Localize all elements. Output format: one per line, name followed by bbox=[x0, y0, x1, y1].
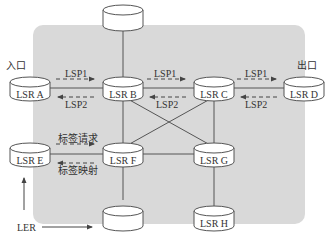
lsp2-ab-label: LSP2 bbox=[65, 99, 87, 110]
lsp1-ab-label: LSP1 bbox=[65, 68, 87, 79]
lsp2-cd-label: LSP2 bbox=[245, 99, 267, 110]
label-request-text: 标签请求 bbox=[58, 133, 98, 144]
lsp1-bc-label: LSP1 bbox=[154, 68, 176, 79]
mpls-diagram bbox=[0, 0, 328, 241]
egress-label: 出口 bbox=[297, 60, 317, 71]
lsr-b-label: LSR B bbox=[103, 89, 143, 101]
lsr-h-label: LSR H bbox=[194, 218, 234, 230]
label-mapping-text: 标签映射 bbox=[58, 165, 98, 176]
lsr-e-label: LSR E bbox=[10, 155, 50, 167]
lsp1-cd-label: LSP1 bbox=[245, 68, 267, 79]
lsr-a-label: LSR A bbox=[10, 89, 50, 101]
node-bottom bbox=[103, 206, 143, 231]
ingress-label: 入口 bbox=[6, 60, 26, 71]
mpls-region-bg bbox=[33, 25, 305, 224]
node-top bbox=[103, 5, 143, 31]
lsr-c-label: LSR C bbox=[194, 89, 234, 101]
ler-label: LER bbox=[17, 222, 36, 233]
lsr-f-label: LSR F bbox=[103, 155, 143, 167]
lsp2-bc-label: LSP2 bbox=[156, 99, 178, 110]
lsr-g-label: LSR G bbox=[194, 155, 234, 167]
lsr-d-label: LSR D bbox=[284, 89, 324, 101]
